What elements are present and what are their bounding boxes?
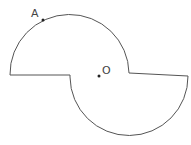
point-o-dot: [98, 75, 101, 78]
point-a-label: A: [31, 7, 39, 20]
geometry-figure: A O: [0, 0, 191, 145]
point-a-dot: [42, 19, 45, 22]
point-o-label: O: [102, 64, 111, 77]
